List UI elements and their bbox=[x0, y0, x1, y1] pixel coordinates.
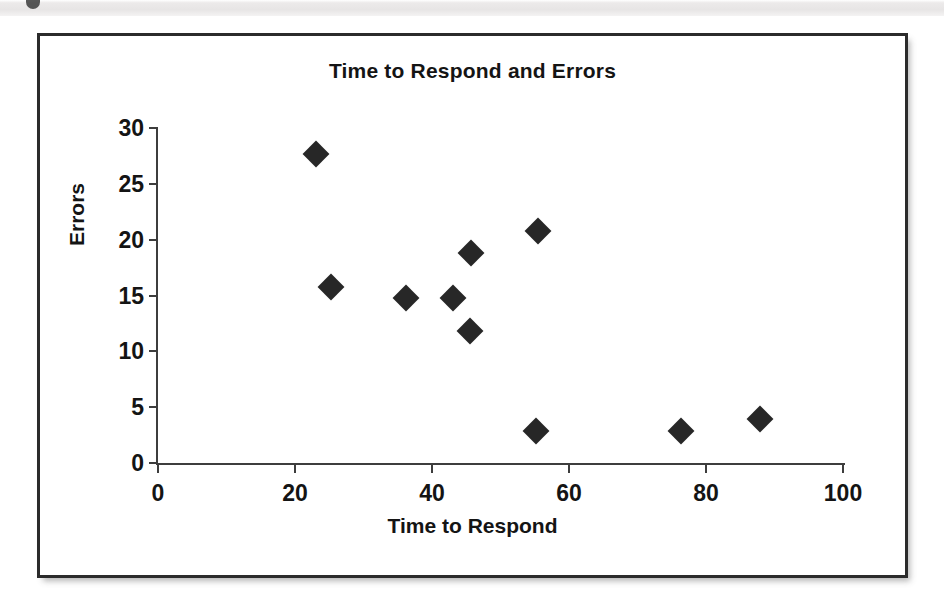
x-tick bbox=[568, 465, 570, 473]
y-tick-label: 0 bbox=[131, 450, 144, 477]
figure-frame: Time to Respond and Errors 051015202530 … bbox=[37, 33, 908, 578]
y-tick bbox=[149, 350, 157, 352]
x-axis-label: Time to Respond bbox=[40, 514, 905, 538]
x-tick-label: 100 bbox=[824, 480, 862, 507]
y-tick bbox=[149, 183, 157, 185]
x-tick-label: 60 bbox=[556, 480, 582, 507]
y-tick-label: 30 bbox=[118, 115, 144, 142]
y-tick bbox=[149, 406, 157, 408]
data-point bbox=[458, 240, 485, 267]
data-point bbox=[440, 284, 467, 311]
data-point bbox=[456, 318, 483, 345]
data-point bbox=[523, 417, 550, 444]
data-point bbox=[393, 284, 420, 311]
scatter-plot-area: 051015202530 020406080100 bbox=[158, 128, 843, 463]
y-tick-label: 15 bbox=[118, 282, 144, 309]
y-tick-label: 25 bbox=[118, 170, 144, 197]
x-tick bbox=[157, 465, 159, 473]
x-tick-label: 80 bbox=[693, 480, 719, 507]
x-tick bbox=[705, 465, 707, 473]
x-axis-line bbox=[156, 463, 845, 465]
y-tick bbox=[149, 127, 157, 129]
page-top-band bbox=[0, 0, 944, 16]
y-tick bbox=[149, 295, 157, 297]
x-tick-label: 40 bbox=[419, 480, 445, 507]
x-tick bbox=[294, 465, 296, 473]
x-tick bbox=[842, 465, 844, 473]
y-tick-label: 5 bbox=[131, 394, 144, 421]
data-point bbox=[525, 217, 552, 244]
data-point bbox=[318, 273, 345, 300]
x-tick-label: 0 bbox=[152, 480, 165, 507]
y-tick bbox=[149, 462, 157, 464]
y-tick bbox=[149, 239, 157, 241]
x-tick bbox=[431, 465, 433, 473]
chart-title: Time to Respond and Errors bbox=[40, 59, 905, 83]
data-point bbox=[302, 140, 329, 167]
data-point bbox=[747, 406, 774, 433]
y-tick-label: 20 bbox=[118, 226, 144, 253]
x-tick-label: 20 bbox=[282, 480, 308, 507]
data-point bbox=[668, 417, 695, 444]
partial-figure-marker-icon bbox=[26, 0, 40, 9]
y-axis-label: Errors bbox=[65, 183, 89, 246]
y-tick-label: 10 bbox=[118, 338, 144, 365]
